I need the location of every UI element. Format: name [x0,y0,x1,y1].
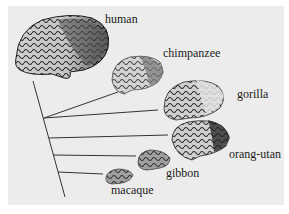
label-gibbon: gibbon [166,167,199,179]
label-gorilla: gorilla [237,88,268,100]
brain-tree-diagram [0,0,289,214]
brain-gorilla [164,80,224,120]
brain-orang-utan [172,120,230,160]
label-macaque: macaque [111,184,154,196]
brain-chimpanzee [112,56,164,94]
brain-human [16,15,109,78]
label-human: human [105,13,138,25]
phylogeny-lines [33,81,168,197]
brain-macaque [106,169,133,184]
label-orang-utan: orang-utan [229,148,281,160]
label-chimpanzee: chimpanzee [163,47,220,59]
